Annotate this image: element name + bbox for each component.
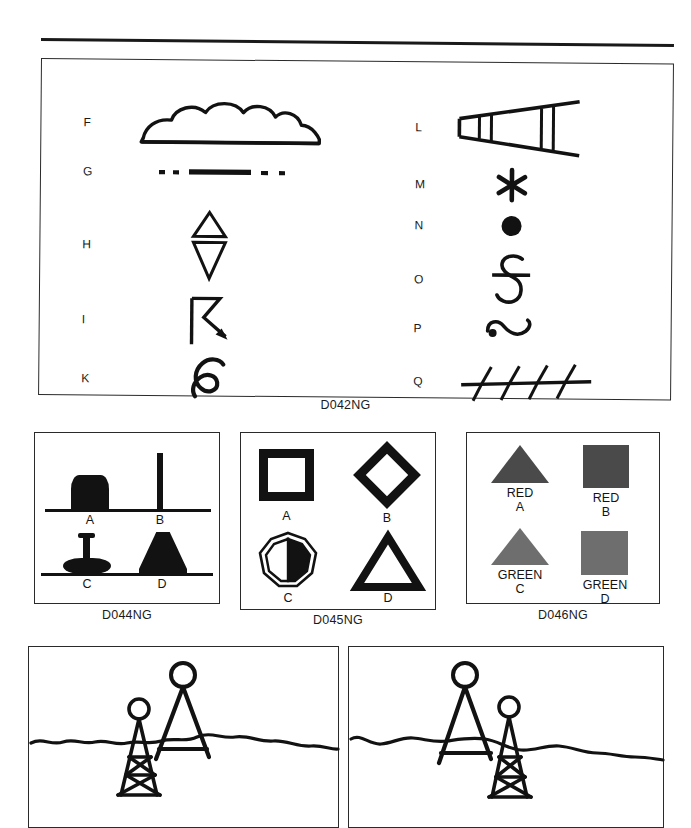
- shape-square-outline: [259, 449, 314, 501]
- range-marker-scene-left: [29, 647, 340, 828]
- shape-conical-buoy: [139, 532, 187, 574]
- shape-label-d: D: [567, 592, 643, 606]
- symbol-row-i: I: [81, 291, 237, 348]
- shape-spar-buoy: [157, 453, 163, 510]
- shape-colour-label-b: RED B: [571, 491, 641, 519]
- colour-text-d: GREEN: [567, 578, 643, 592]
- plate-d046ng: RED A RED B GREEN C GREEN D: [466, 432, 660, 604]
- symbol-letter-o: O: [414, 272, 432, 286]
- header-rule: [41, 38, 674, 47]
- symbol-letter-p: P: [414, 321, 432, 335]
- plate-range-right: [348, 646, 664, 828]
- tapered-wedge-icon: [457, 99, 586, 158]
- shape-green-triangle: [491, 528, 549, 565]
- symbol-row-f: F: [83, 99, 323, 147]
- wave-with-dot-icon: [484, 315, 538, 343]
- shape-octagon-half-filled: [257, 531, 319, 589]
- symbol-letter-h: H: [82, 237, 100, 251]
- shape-colour-label-d: GREEN D: [567, 578, 643, 606]
- shape-mast-topmark: [78, 533, 95, 538]
- caption-d046ng: D046NG: [466, 608, 660, 622]
- shape-colour-label-c: GREEN C: [477, 568, 563, 596]
- shape-label-c: C: [477, 582, 563, 596]
- symbol-letter-g: G: [83, 164, 101, 178]
- symbol-letter-i: I: [82, 312, 100, 326]
- symbol-letter-k: K: [81, 371, 99, 385]
- sheet-canvas: F G: [0, 0, 691, 828]
- shape-label-c: C: [68, 577, 106, 591]
- shape-label-b: B: [571, 505, 641, 519]
- shape-red-triangle: [491, 445, 549, 483]
- double-triangle-topmark-icon: [186, 208, 233, 282]
- shape-colour-label-a: RED A: [483, 486, 557, 514]
- shape-green-square: [581, 531, 628, 575]
- shape-label-a: A: [483, 500, 557, 514]
- asterisk-star-icon: [495, 168, 529, 202]
- shape-can-buoy: [71, 475, 109, 510]
- plate-d045ng: A B C D: [240, 432, 436, 610]
- shape-label-a: A: [259, 509, 314, 523]
- shape-diamond-outline: [353, 441, 421, 509]
- shape-label-c: C: [257, 591, 319, 605]
- symbol-row-k: K: [81, 355, 231, 402]
- zigzag-arrow-icon: [187, 292, 237, 348]
- symbol-row-l: L: [415, 98, 585, 157]
- shape-triangle-outline: [353, 533, 423, 591]
- horizon-line-upper: [45, 509, 211, 512]
- cloud-outline-icon: [137, 100, 323, 148]
- colour-text-c: GREEN: [477, 568, 563, 582]
- filled-circle-dot-icon: [498, 213, 524, 239]
- caption-d042ng: D042NG: [0, 398, 691, 412]
- range-marker-scene-right: [349, 647, 665, 828]
- shape-buoy-mast: [83, 537, 90, 563]
- struck-through-s-icon: [490, 253, 536, 307]
- symbol-letter-f: F: [83, 115, 101, 129]
- symbol-letter-n: N: [414, 218, 432, 232]
- horizon-line-lower: [41, 573, 213, 576]
- reversed-s-glyph-icon: [183, 356, 231, 402]
- symbol-row-p: P: [414, 314, 538, 343]
- caption-d044ng: D044NG: [34, 608, 220, 622]
- plate-range-left: [28, 646, 339, 828]
- shape-label-d: D: [353, 591, 423, 605]
- plate-d044ng: A B C D: [34, 432, 220, 604]
- caption-d045ng: D045NG: [240, 613, 436, 627]
- colour-text-b: RED: [571, 491, 641, 505]
- symbol-letter-q: Q: [413, 374, 431, 388]
- shape-red-square: [583, 445, 629, 488]
- shape-label-d: D: [143, 577, 181, 591]
- shape-label-a: A: [71, 513, 109, 527]
- symbol-row-n: N: [414, 212, 524, 239]
- symbol-letter-l: L: [415, 120, 433, 134]
- symbol-letter-m: M: [415, 177, 433, 191]
- symbol-row-h: H: [82, 207, 233, 282]
- colour-text-a: RED: [483, 486, 557, 500]
- shape-label-b: B: [363, 511, 411, 525]
- plate-d042ng: F G: [38, 58, 674, 401]
- symbol-row-o: O: [414, 252, 536, 307]
- symbol-row-m: M: [415, 167, 529, 202]
- shape-label-b: B: [143, 513, 177, 527]
- symbol-row-g: G: [83, 164, 315, 180]
- dash-dot-line-icon: [159, 165, 315, 180]
